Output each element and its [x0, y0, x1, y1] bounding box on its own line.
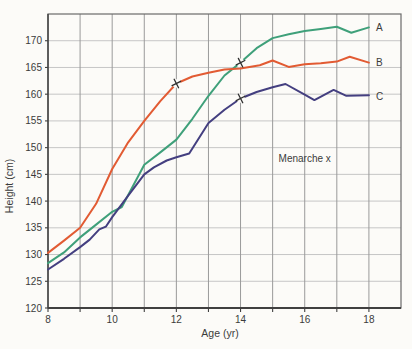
axes-layer [45, 14, 401, 312]
x-tick-label-14: 14 [235, 314, 247, 325]
curve-label-B: B [376, 57, 383, 68]
y-tick-label-160: 160 [25, 89, 42, 100]
x-axis-title: Age (yr) [201, 327, 238, 339]
x-tick-label-12: 12 [171, 314, 183, 325]
menarche-legend-text: Menarche x [279, 153, 331, 164]
y-tick-label-165: 165 [25, 62, 42, 73]
y-tick-label-135: 135 [25, 222, 42, 233]
y-tick-label-145: 145 [25, 169, 42, 180]
y-tick-label-120: 120 [25, 303, 42, 314]
x-tick-label-10: 10 [107, 314, 119, 325]
y-tick-label-155: 155 [25, 115, 42, 126]
x-tick-label-16: 16 [299, 314, 311, 325]
curve-label-C: C [376, 91, 383, 102]
growth-chart: 8101214161812012513013514014515015516016… [0, 0, 412, 349]
y-tick-label-170: 170 [25, 35, 42, 46]
x-tick-label-8: 8 [45, 314, 51, 325]
growth-chart-figure: 8101214161812012513013514014515015516016… [0, 0, 412, 349]
x-tick-label-18: 18 [363, 314, 375, 325]
y-axis-title: Height (cm) [3, 159, 15, 213]
y-tick-label-140: 140 [25, 196, 42, 207]
y-tick-label-125: 125 [25, 276, 42, 287]
y-tick-label-150: 150 [25, 142, 42, 153]
curve-label-A: A [376, 22, 383, 33]
y-tick-label-130: 130 [25, 249, 42, 260]
